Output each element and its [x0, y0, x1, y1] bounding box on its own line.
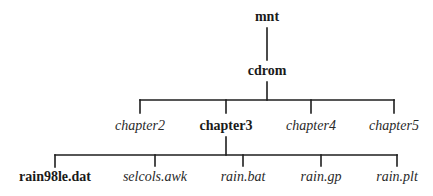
- node-chapter2: chapter2: [115, 118, 165, 134]
- node-rain-gp: rain.gp: [301, 169, 342, 185]
- node-cdrom: cdrom: [248, 63, 287, 79]
- node-chapter3: chapter3: [200, 118, 253, 134]
- directory-tree-diagram: mnt cdrom chapter2 chapter3 chapter4 cha…: [0, 0, 433, 196]
- node-chapter4: chapter4: [286, 118, 336, 134]
- node-mnt: mnt: [255, 9, 279, 25]
- node-rain98le-dat: rain98le.dat: [19, 169, 91, 185]
- tree-connector-lines: [0, 0, 433, 196]
- node-rain-plt: rain.plt: [376, 169, 418, 185]
- node-chapter5: chapter5: [369, 118, 419, 134]
- node-selcols-awk: selcols.awk: [123, 169, 187, 185]
- node-rain-bat: rain.bat: [221, 169, 266, 185]
